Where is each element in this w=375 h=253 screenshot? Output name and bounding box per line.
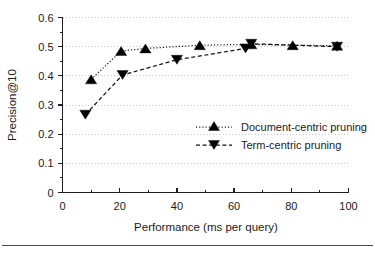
x-tick-label: 0 [59, 200, 65, 212]
x-tick-label: 60 [228, 200, 240, 212]
x-tick-label: 100 [339, 200, 357, 212]
y-axis-title: Precision@10 [6, 69, 18, 141]
legend-entry-term-centric: Term-centric pruning [196, 139, 341, 151]
legend-entry-document-centric: Document-centric pruning [196, 121, 367, 133]
y-tick-label: 0.4 [38, 70, 53, 82]
data-point-triangle-down [117, 70, 128, 79]
y-tick-label: 0.5 [38, 41, 53, 53]
legend-label-document-centric: Document-centric pruning [241, 121, 367, 133]
legend-label-term-centric: Term-centric pruning [241, 139, 341, 151]
x-axis-tick-labels: 020406080100 [59, 200, 357, 212]
legend: Document-centric pruning Term-centric pr… [196, 121, 367, 151]
y-tick-label: 0.1 [38, 157, 53, 169]
y-tick-label: 0.3 [38, 99, 53, 111]
chart-figure: 00.10.20.30.40.50.6 020406080100 Perform… [0, 0, 375, 253]
x-axis-title: Performance (ms per query) [134, 221, 278, 233]
x-tick-label: 40 [171, 200, 183, 212]
plot-axes [63, 18, 349, 193]
y-tick-label: 0 [47, 187, 53, 199]
data-point-triangle-down [80, 110, 91, 119]
x-tick-label: 20 [114, 200, 126, 212]
y-axis-tick-labels: 00.10.20.30.40.50.6 [38, 12, 53, 199]
x-tick-label: 80 [285, 200, 297, 212]
precision-vs-performance-chart: 00.10.20.30.40.50.6 020406080100 Perform… [0, 0, 375, 253]
x-axis-ticks [63, 188, 349, 193]
data-point-triangle-down [171, 55, 182, 64]
triangle-up-icon [209, 122, 220, 131]
y-tick-label: 0.2 [38, 128, 53, 140]
y-axis-ticks [58, 18, 63, 193]
y-tick-label: 0.6 [38, 12, 53, 24]
